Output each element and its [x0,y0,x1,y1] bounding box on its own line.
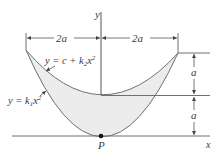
upper-height-label: a [191,66,197,78]
point-p-marker [99,134,104,139]
x-axis-label: x [205,139,211,150]
point-p-label: P [97,139,105,151]
lower-height-label: a [191,109,197,121]
parabolic-region-diagram: y x P 2a 2a a a y = c + k2x2 y = k1x2 [0,0,221,152]
inner-curve-leader [46,66,55,71]
y-axis-label: y [94,8,100,20]
right-width-label: 2a [132,32,144,44]
outer-curve-equation: y = k1x2 [7,94,42,108]
left-width-label: 2a [56,32,68,44]
inner-curve-equation: y = c + k2x2 [44,54,96,68]
